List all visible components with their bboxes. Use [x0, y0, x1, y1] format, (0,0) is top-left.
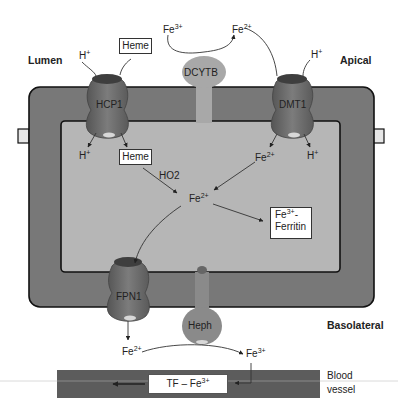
fe3-lumen: Fe3+: [163, 24, 183, 35]
tf-fe-box: TF – Fe3+: [148, 374, 228, 394]
lumen-label: Lumen: [28, 55, 62, 66]
heme-cyto-box: Heme: [119, 149, 152, 165]
fe2-basolateral: Fe2+: [122, 346, 142, 357]
ferritin-line1: Fe3+-: [271, 209, 311, 221]
hcp1-label: HCP1: [96, 99, 123, 110]
fe3-basolateral: Fe3+: [246, 348, 266, 359]
basolateral-label: Basolateral: [327, 320, 384, 331]
heph-label: Heph: [188, 320, 212, 331]
left-tab: [18, 129, 29, 143]
fe2-central: Fe2+: [189, 193, 209, 204]
ho2-label: HO2: [159, 170, 180, 181]
ferritin-line2: Ferritin: [271, 221, 311, 233]
apical-label: Apical: [340, 55, 372, 66]
fe2-dmt1-cyto: Fe2+: [255, 152, 275, 163]
dmt1-label: DMT1: [279, 99, 306, 110]
heme-lumen-box: Heme: [119, 38, 152, 54]
blood-vessel-label-1: Blood: [327, 370, 353, 381]
ferritin-box: Fe3+- Ferritin: [270, 207, 312, 239]
h-plus-lumen-hcp1: H+: [79, 50, 90, 61]
h-plus-lumen-dmt1: H+: [311, 49, 322, 60]
fpn1-label: FPN1: [116, 291, 142, 302]
blood-vessel-label-2: vessel: [327, 384, 355, 395]
fe2-lumen: Fe2+: [232, 24, 252, 35]
h-plus-cyto-hcp1: H+: [79, 150, 90, 161]
h-plus-cyto-dmt1: H+: [307, 150, 318, 161]
dcytb-label: DCYTB: [184, 67, 218, 78]
